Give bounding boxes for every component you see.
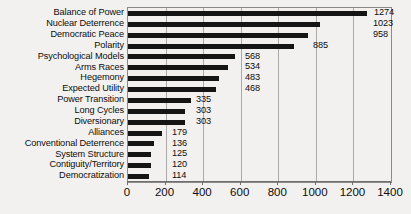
value-label: 179	[172, 127, 187, 137]
x-axis-tick	[240, 181, 241, 185]
bar	[128, 120, 185, 125]
x-axis-tick	[202, 181, 203, 185]
x-axis-tick-label: 1400	[377, 186, 403, 199]
value-label: 335	[196, 94, 211, 104]
category-label: Balance of Power	[0, 7, 124, 17]
bar	[128, 54, 235, 59]
category-label: Expected Utility	[0, 83, 124, 93]
value-label: 468	[245, 83, 260, 93]
category-label: Nuclear Deterrence	[0, 18, 124, 28]
bar	[128, 65, 228, 70]
gridline	[316, 8, 317, 182]
x-axis-tick-label: 200	[155, 186, 174, 199]
value-label: 120	[172, 159, 187, 169]
x-axis-line	[127, 181, 391, 182]
bar-chart: Balance of PowerNuclear DeterrenceDemocr…	[0, 0, 411, 214]
category-label: Arms Races	[0, 62, 124, 72]
value-label: 534	[245, 61, 260, 71]
category-axis-labels: Balance of PowerNuclear DeterrenceDemocr…	[0, 7, 124, 181]
bar	[128, 141, 154, 146]
category-label: Alliances	[0, 127, 124, 137]
x-axis-tick	[390, 181, 391, 185]
category-label: Contiguity/Territory	[0, 159, 124, 169]
x-axis-tick-label: 0	[124, 186, 130, 199]
value-label: 303	[196, 105, 211, 115]
value-label: 958	[373, 29, 388, 39]
bar	[128, 174, 149, 179]
bar	[128, 152, 151, 157]
category-label: Democratic Peace	[0, 29, 124, 39]
category-label: Long Cycles	[0, 105, 124, 115]
x-axis-tick	[165, 181, 166, 185]
category-label: Hegemony	[0, 72, 124, 82]
bar	[128, 163, 151, 168]
value-label: 568	[245, 51, 260, 61]
x-axis-tick-label: 400	[193, 186, 212, 199]
category-label: Democratization	[0, 170, 124, 180]
plot-area	[127, 7, 392, 183]
x-axis-tick-label: 1200	[340, 186, 366, 199]
value-label: 114	[172, 170, 186, 180]
bar	[128, 11, 367, 16]
category-label: System Structure	[0, 149, 124, 159]
value-label: 1274	[374, 7, 394, 17]
bar	[128, 76, 219, 81]
bar	[128, 109, 185, 114]
category-label: Power Transition	[0, 94, 124, 104]
value-label: 483	[245, 72, 260, 82]
x-axis-tick-label: 800	[268, 186, 287, 199]
category-label: Conventional Deterrence	[0, 138, 124, 148]
category-label: Diversionary	[0, 116, 124, 126]
bar	[128, 22, 320, 27]
category-label: Psychological Models	[0, 51, 124, 61]
value-label: 1023	[373, 18, 393, 28]
value-label: 885	[313, 40, 328, 50]
bar	[128, 33, 308, 38]
x-axis-tick-label: 1000	[302, 186, 328, 199]
value-label: 136	[172, 138, 187, 148]
x-axis-tick	[315, 181, 316, 185]
value-label: 125	[172, 148, 187, 158]
x-axis-tick	[277, 181, 278, 185]
category-label: Polarity	[0, 40, 124, 50]
bar	[128, 44, 294, 49]
bar	[128, 131, 162, 136]
x-axis-tick	[127, 181, 128, 185]
x-axis-tick	[352, 181, 353, 185]
x-axis-tick-label: 600	[230, 186, 249, 199]
gridline	[353, 8, 354, 182]
bar	[128, 87, 216, 92]
bar	[128, 98, 191, 103]
value-label: 303	[196, 116, 211, 126]
